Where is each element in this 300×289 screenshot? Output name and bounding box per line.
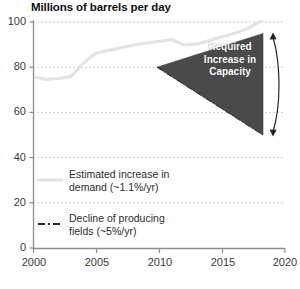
ytick-label-60: 60 [0,106,26,117]
wedge-label-line-1: Required [192,41,268,54]
xtick-label-2005: 2005 [69,257,125,268]
xtick-label-2020: 2020 [257,257,300,268]
ytick-label-100: 100 [0,16,26,27]
xtick-label-2015: 2015 [195,257,251,268]
capacity-gap-arrow-head-bottom [270,129,277,136]
wedge-label-line-3: Capacity [192,66,268,79]
ytick-label-0: 0 [0,242,26,253]
legend-demand-line-1: Estimated increase in [69,168,169,181]
xtick-label-2010: 2010 [132,257,188,268]
ytick-label-80: 80 [0,61,26,72]
xtick-label-2000: 2000 [6,257,62,268]
legend-swatches [38,180,62,224]
capacity-gap-arrow-curve [273,37,279,132]
chart-container: Millions of barrels per day [0,0,300,289]
ytick-label-40: 40 [0,152,26,163]
legend-decline-line-1: Decline of producing [69,212,165,225]
legend-demand-line-2: demand (~1.1%/yr) [69,181,159,194]
capacity-gap-arrow-head-top [270,33,277,40]
wedge-label-line-2: Increase in [192,54,268,67]
legend-decline-line-2: fields (~5%/yr) [69,225,136,238]
ytick-label-20: 20 [0,197,26,208]
capacity-gap-arrow [270,33,279,137]
